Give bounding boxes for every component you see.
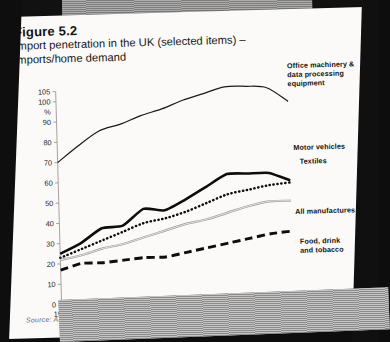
series-label-all-manufactures: All manufactures — [295, 205, 355, 216]
y-axis-tick-label: 60 — [44, 179, 52, 188]
chart-series — [55, 71, 306, 270]
y-axis-tick-label: 30 — [46, 239, 54, 248]
y-axis-tick-label: 40 — [46, 219, 54, 228]
y-axis-tick-label: 50 — [45, 199, 53, 208]
y-axis-tick-label: 100 — [38, 98, 51, 107]
y-axis-tick-label: 70 — [44, 158, 52, 167]
chart-axes: 0102030405060708090100105%19757677787980… — [38, 81, 298, 319]
series-textiles — [58, 182, 292, 257]
y-axis-tick-label: 90 — [43, 118, 51, 127]
y-axis-tick-label: 20 — [47, 260, 55, 269]
series-line — [58, 182, 292, 257]
y-axis-unit-label: % — [44, 108, 51, 117]
series-office-machinery-data-processing-equipment — [56, 85, 290, 163]
series-line — [59, 200, 292, 259]
series-label-textiles: Textiles — [300, 156, 327, 166]
y-axis-line — [56, 92, 62, 305]
series-motor-vehicles — [58, 172, 292, 254]
y-axis-tick-label: 0 — [52, 300, 56, 309]
series-all-manufactures — [59, 200, 292, 259]
y-axis-tick-label: 10 — [47, 280, 55, 289]
y-axis-tick-label: 80 — [43, 138, 51, 147]
series-line — [56, 85, 290, 163]
y-axis-tick-label: 105 — [38, 87, 51, 96]
series-label-office-machinery: Office machinery & data processing equip… — [287, 59, 355, 88]
series-label-food-drink-tobacco: Food, drink and tobacco — [300, 236, 344, 256]
series-line — [58, 172, 292, 254]
series-label-motor-vehicles: Motor vehicles — [293, 142, 345, 153]
